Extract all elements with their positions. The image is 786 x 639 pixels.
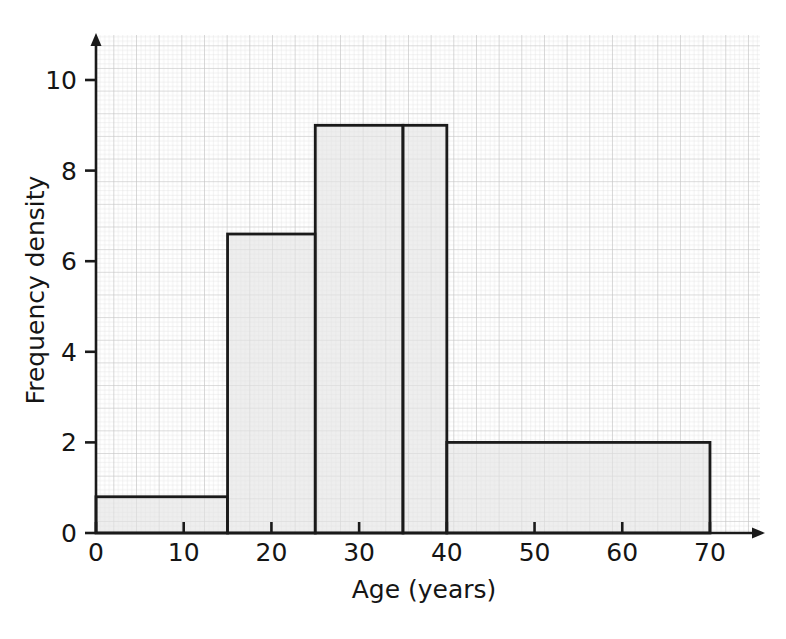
y-tick-label: 8 xyxy=(61,157,77,186)
bar-rect xyxy=(315,125,403,533)
y-tick-label: 4 xyxy=(61,338,77,367)
x-tick-label: 10 xyxy=(168,538,200,567)
y-axis-ticks: 0246810 xyxy=(45,66,96,548)
bar-rect xyxy=(403,125,447,533)
x-tick-label: 30 xyxy=(343,538,375,567)
histogram-plot: 010203040506070 0246810 Age (years) Freq… xyxy=(0,0,786,639)
x-tick-label: 60 xyxy=(606,538,638,567)
x-tick-label: 70 xyxy=(694,538,726,567)
y-tick-label: 0 xyxy=(61,519,77,548)
x-tick-label: 20 xyxy=(256,538,288,567)
x-axis-label: Age (years) xyxy=(352,575,497,604)
histogram-figure: 010203040506070 0246810 Age (years) Freq… xyxy=(0,0,786,639)
y-tick-label: 6 xyxy=(61,247,77,276)
histogram-bar xyxy=(315,125,403,533)
x-tick-label: 0 xyxy=(88,538,104,567)
histogram-bar xyxy=(228,234,316,533)
histogram-bar xyxy=(447,442,710,533)
y-tick-label: 10 xyxy=(45,66,77,95)
y-axis-label: Frequency density xyxy=(21,175,50,404)
y-tick-label: 2 xyxy=(61,428,77,457)
histogram-bar xyxy=(403,125,447,533)
x-tick-label: 40 xyxy=(431,538,463,567)
x-tick-label: 50 xyxy=(519,538,551,567)
histogram-bar xyxy=(96,497,228,533)
bar-rect xyxy=(96,497,228,533)
bar-rect xyxy=(447,442,710,533)
bar-rect xyxy=(228,234,316,533)
